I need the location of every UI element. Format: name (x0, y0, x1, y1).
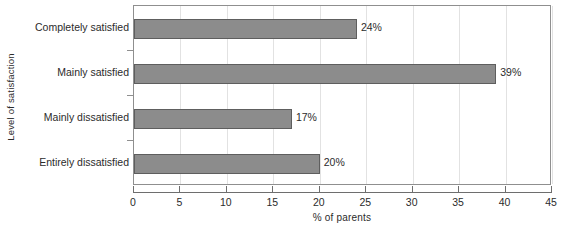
y-axis-tick (127, 95, 133, 96)
x-axis-title: % of parents (133, 212, 551, 223)
x-axis-tick-label: 35 (443, 196, 473, 208)
x-axis-tick-label: 10 (211, 196, 241, 208)
bar (134, 109, 292, 129)
bar-value-label: 39% (500, 67, 521, 78)
x-axis-tick (179, 186, 180, 193)
gridline (506, 6, 507, 184)
category-label: Completely satisfied (14, 22, 129, 33)
x-axis-tick-label: 25 (350, 196, 380, 208)
gridline (413, 6, 414, 184)
x-axis-tick (226, 186, 227, 193)
y-axis-tick (127, 140, 133, 141)
bar-chart: Level of satisfaction Completely satisfi… (0, 0, 565, 231)
category-label: Mainly satisfied (14, 67, 129, 78)
x-axis-tick-label: 20 (304, 196, 334, 208)
x-axis-tick (458, 186, 459, 193)
x-axis-tick (505, 186, 506, 193)
category-label: Entirely dissatisfied (14, 157, 129, 168)
x-axis-line (133, 192, 551, 193)
gridline (459, 6, 460, 184)
x-axis-tick (412, 186, 413, 193)
x-axis-tick-label: 30 (397, 196, 427, 208)
x-axis-tick-label: 40 (490, 196, 520, 208)
x-axis-tick (272, 186, 273, 193)
gridline (552, 6, 553, 184)
gridline (366, 6, 367, 184)
x-axis-tick-label: 15 (257, 196, 287, 208)
x-axis-tick-label: 45 (536, 196, 565, 208)
x-axis-tick (133, 186, 134, 193)
x-axis-tick-label: 0 (118, 196, 148, 208)
x-axis-tick-label: 5 (164, 196, 194, 208)
bar (134, 154, 320, 174)
bar-value-label: 20% (324, 157, 345, 168)
category-axis-labels: Completely satisfiedMainly satisfiedMain… (14, 5, 129, 185)
y-axis-tick (127, 50, 133, 51)
x-axis-tick (365, 186, 366, 193)
x-axis-tick (319, 186, 320, 193)
x-axis-tick (551, 186, 552, 193)
category-label: Mainly dissatisfied (14, 112, 129, 123)
bar-value-label: 24% (361, 22, 382, 33)
bar-value-label: 17% (296, 112, 317, 123)
bar (134, 64, 496, 84)
bar (134, 19, 357, 39)
